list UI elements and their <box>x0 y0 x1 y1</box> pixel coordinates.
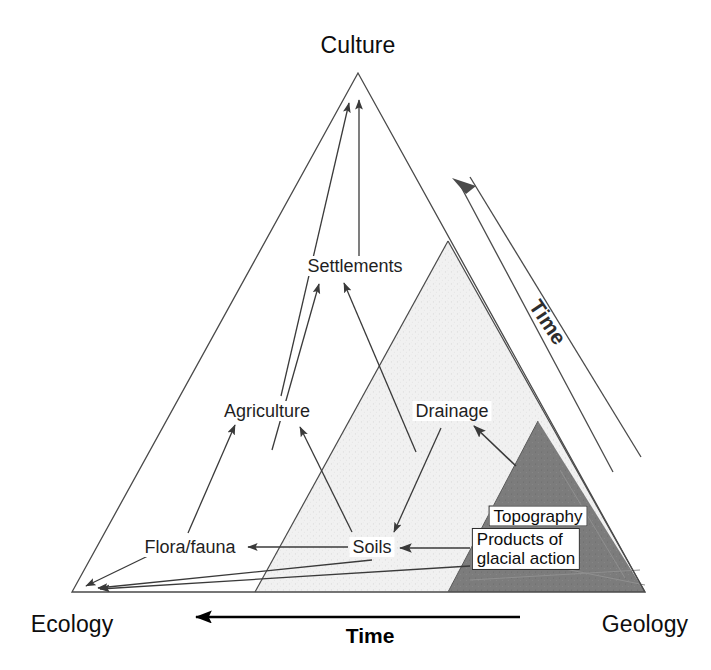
node-label-products-of-glacial-action: Products of glacial action <box>472 528 580 570</box>
corner-label-culture: Culture <box>321 34 396 57</box>
triangle-diagram-svg <box>0 0 711 670</box>
node-label-settlements: Settlements <box>304 256 405 276</box>
corner-label-geology: Geology <box>602 613 688 636</box>
arrow-florafauna-to-ecology <box>86 555 150 586</box>
arrow-florafauna-to-agriculture <box>188 425 235 533</box>
diagram-canvas: Culture Ecology Geology Settlements Agri… <box>0 0 711 670</box>
arrow-agriculture-to-culture <box>281 103 349 396</box>
node-label-agriculture: Agriculture <box>221 401 313 421</box>
node-label-flora-fauna: Flora/fauna <box>141 537 238 557</box>
node-label-drainage: Drainage <box>412 401 491 421</box>
node-label-soils: Soils <box>349 537 394 557</box>
node-label-topography: Topography <box>489 506 588 527</box>
arrow-agriculture-to-settlements <box>272 284 319 450</box>
axis-label-time-bottom: Time <box>346 625 395 646</box>
corner-label-ecology: Ecology <box>31 613 114 636</box>
